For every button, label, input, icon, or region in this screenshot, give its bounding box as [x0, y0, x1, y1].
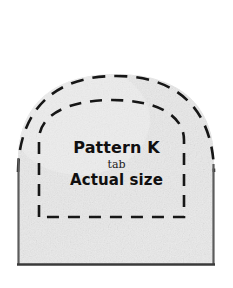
pattern-scale-label: Actual size: [0, 173, 233, 188]
pattern-subtitle-label: tab: [0, 159, 233, 170]
pattern-figure: Pattern K tab Actual size: [0, 0, 233, 288]
pattern-title-label: Pattern K: [0, 140, 233, 156]
pattern-label-group: Pattern K tab Actual size: [0, 140, 233, 188]
